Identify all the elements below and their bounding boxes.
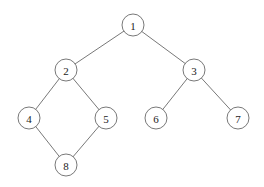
graph-diagram: 12345678	[0, 0, 264, 187]
node-label: 1	[130, 20, 136, 32]
node-2: 2	[55, 59, 77, 81]
node-label: 5	[103, 113, 109, 125]
node-5: 5	[95, 107, 117, 129]
node-8: 8	[55, 154, 77, 176]
nodes: 12345678	[18, 14, 249, 176]
node-3: 3	[183, 59, 205, 81]
node-7: 7	[227, 107, 249, 129]
node-1: 1	[122, 14, 144, 36]
edge-1-2	[66, 25, 133, 70]
node-6: 6	[145, 107, 167, 129]
node-label: 7	[235, 113, 241, 125]
node-label: 3	[191, 65, 197, 77]
edges	[29, 25, 238, 165]
node-4: 4	[18, 107, 40, 129]
node-label: 4	[26, 113, 32, 125]
node-label: 6	[153, 113, 159, 125]
node-label: 2	[63, 65, 69, 77]
node-label: 8	[63, 160, 69, 172]
